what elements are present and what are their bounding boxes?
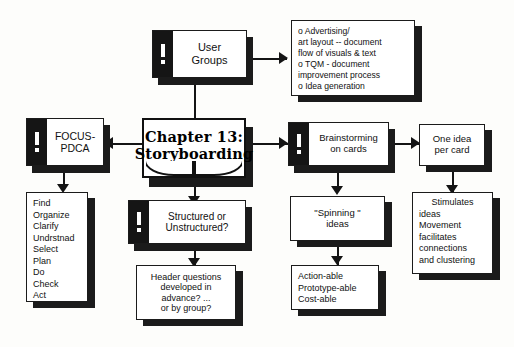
one-idea-card: One ideaper card — [419, 124, 485, 166]
uses-line: improvement process — [298, 70, 408, 81]
storyboarding-diagram: Chapter 13: Storyboarding UserGroups — [0, 0, 514, 347]
node-center-chapter[interactable]: Chapter 13: Storyboarding — [142, 118, 246, 178]
able-list-card: Action-able Prototype-able Cost-able — [291, 265, 379, 310]
center-title: Chapter 13: Storyboarding — [135, 129, 254, 161]
uses-line: o Idea generation — [298, 81, 408, 92]
able-list-lines: Action-able Prototype-able Cost-able — [292, 266, 378, 306]
stimulates-line: ideas — [419, 209, 486, 221]
stimulates-lines: Stimulates ideas Movement facilitates co… — [413, 193, 492, 266]
spinning-card: "Spinning "ideas — [290, 196, 385, 241]
exclamation-dot — [161, 60, 165, 64]
node-one-idea-per-card[interactable]: One ideaper card — [419, 124, 485, 166]
focus-step: Find — [33, 198, 81, 210]
focus-steps-card: Find Organize Clarify Undrstnad Select P… — [26, 192, 88, 302]
header-questions-line: or by group? — [151, 303, 222, 313]
focus-step: Clarify — [33, 221, 81, 233]
center-card-face: Chapter 13: Storyboarding — [142, 118, 246, 178]
uses-line: o TQM - document — [298, 59, 408, 70]
spinning-label: "Spinning "ideas — [314, 208, 360, 230]
exclamation-dot — [297, 150, 301, 154]
uses-line: art layout -- document — [298, 37, 408, 48]
exclamation-dot — [137, 228, 141, 232]
user-groups-label: UserGroups — [191, 41, 227, 66]
structured-label-wrap: Structured orUnstructured? — [149, 201, 245, 243]
stimulates-card: Stimulates ideas Movement facilitates co… — [412, 192, 493, 274]
header-questions-line: Header questions — [151, 272, 222, 282]
structured-label: Structured orUnstructured? — [166, 211, 229, 234]
node-focus-pdca[interactable]: FOCUS-PDCA — [26, 118, 104, 166]
node-structured[interactable]: Structured orUnstructured? — [128, 200, 246, 244]
focus-step: Plan — [33, 256, 81, 268]
node-able-list[interactable]: Action-able Prototype-able Cost-able — [291, 265, 379, 310]
stimulates-line: Stimulates — [419, 197, 486, 209]
focus-pdca-label-wrap: FOCUS-PDCA — [47, 119, 103, 165]
stimulates-line: facilitates — [419, 232, 486, 244]
node-header-questions[interactable]: Header questions developed in advance? .… — [136, 265, 236, 320]
focus-steps-lines: Find Organize Clarify Undrstnad Select P… — [27, 193, 87, 302]
node-focus-steps[interactable]: Find Organize Clarify Undrstnad Select P… — [26, 192, 88, 302]
header-questions-line: developed in — [151, 282, 222, 292]
focus-pdca-card: FOCUS-PDCA — [26, 118, 104, 166]
warning-exclamation-icon — [27, 119, 47, 165]
stimulates-line: connections — [419, 243, 486, 255]
warning-exclamation-icon — [289, 123, 309, 165]
header-questions-card: Header questions developed in advance? .… — [136, 265, 236, 320]
node-stimulates[interactable]: Stimulates ideas Movement facilitates co… — [412, 192, 493, 274]
user-groups-card: UserGroups — [152, 30, 247, 78]
focus-step: Do — [33, 267, 81, 279]
exclamation-stem — [161, 44, 165, 57]
focus-pdca-label: FOCUS-PDCA — [55, 130, 95, 154]
stimulates-line: Movement — [419, 220, 486, 232]
exclamation-stem — [297, 134, 301, 147]
brainstorming-card: Brainstormingon cards — [288, 122, 389, 166]
exclamation-stem — [137, 212, 141, 225]
brainstorming-label: Brainstormingon cards — [319, 133, 378, 155]
uses-list-lines: o Advertising/ art layout -- document fl… — [292, 21, 414, 92]
brainstorming-label-wrap: Brainstormingon cards — [309, 123, 388, 165]
one-idea-label: One ideaper card — [433, 134, 472, 156]
focus-step: Act — [33, 290, 81, 302]
exclamation-stem — [35, 132, 39, 145]
able-line: Action-able — [298, 271, 372, 283]
able-line: Prototype-able — [298, 283, 372, 295]
arrow-down-spinning — [331, 186, 343, 195]
warning-exclamation-icon — [153, 31, 173, 77]
able-line: Cost-able — [298, 294, 372, 306]
arrow-right-brainstorming — [279, 137, 288, 149]
uses-list-card: o Advertising/ art layout -- document fl… — [291, 20, 415, 96]
warning-exclamation-icon — [129, 201, 149, 243]
header-questions-lines: Header questions developed in advance? .… — [151, 272, 222, 313]
focus-step: Select — [33, 244, 81, 256]
user-groups-label-wrap: UserGroups — [173, 31, 246, 77]
arrow-right-uses — [279, 52, 288, 64]
header-questions-line: advance? ... — [151, 293, 222, 303]
center-title-line1: Chapter 13: — [145, 128, 243, 145]
focus-step: Organize — [33, 210, 81, 222]
exclamation-dot — [35, 148, 39, 152]
node-uses-list[interactable]: o Advertising/ art layout -- document fl… — [291, 20, 415, 96]
book-gutter-icon — [146, 161, 242, 176]
center-title-line2: Storyboarding — [135, 145, 254, 162]
focus-step: Check — [33, 279, 81, 291]
stimulates-line: and clustering — [419, 255, 486, 267]
uses-line: flow of visuals & text — [298, 48, 408, 59]
arrow-down-able — [331, 256, 343, 265]
node-spinning-ideas[interactable]: "Spinning "ideas — [290, 196, 385, 241]
structured-card: Structured orUnstructured? — [128, 200, 246, 244]
node-brainstorming[interactable]: Brainstormingon cards — [288, 122, 389, 166]
focus-step: Undrstnad — [33, 233, 81, 245]
node-user-groups[interactable]: UserGroups — [152, 30, 247, 78]
uses-line: o Advertising/ — [298, 26, 408, 37]
